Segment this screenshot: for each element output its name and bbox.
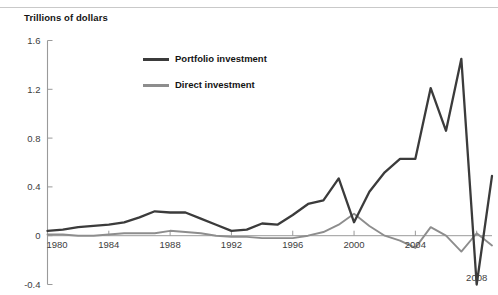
x-axis-tick-label: 1980 xyxy=(47,239,68,250)
legend-label-portfolio-investment: Portfolio investment xyxy=(175,53,267,64)
y-axis-tick-label: -0.4 xyxy=(24,279,40,290)
y-axis-tick-label: 0.8 xyxy=(27,133,40,144)
series-group xyxy=(48,59,493,285)
x-axis-tick-label: 1984 xyxy=(98,239,119,250)
y-axis-tick-label: 1.6 xyxy=(27,35,40,46)
x-axis-tick-label: 1996 xyxy=(282,239,303,250)
legend-swatch-direct-investment xyxy=(143,84,169,87)
y-axis-tick-label: 0 xyxy=(35,230,40,241)
series-line-portfolio-investment xyxy=(48,59,493,285)
x-axis-tick-label: 1988 xyxy=(160,239,181,250)
x-axis-tick-label: 2000 xyxy=(343,239,364,250)
y-axis-tick-label: 1.2 xyxy=(27,84,40,95)
y-axis-tick-label: 0.4 xyxy=(27,181,40,192)
legend-label-direct-investment: Direct investment xyxy=(175,79,255,90)
x-axis-tick-label: 1992 xyxy=(221,239,242,250)
x-axis-tick-label: 2004 xyxy=(405,239,426,250)
x-axis-tick-label: 2008 xyxy=(466,272,487,283)
chart-plot-area: 1.61.20.80.40-0.419801984198819921996200… xyxy=(0,0,498,295)
chart-container: Trillions of dollars 1.61.20.80.40-0.419… xyxy=(0,0,498,295)
legend-swatch-portfolio-investment xyxy=(143,58,169,61)
tick-label-group: 1.61.20.80.40-0.419801984198819921996200… xyxy=(24,35,487,290)
